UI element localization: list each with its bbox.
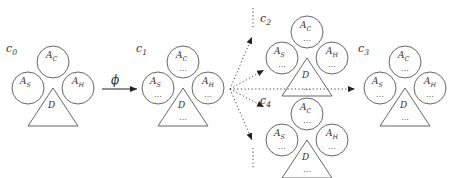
node-label-a-h: AH — [326, 128, 338, 140]
content-ellipsis-a-c: … — [303, 34, 311, 43]
config-label-c4: c4 — [260, 94, 271, 109]
node-label-a-c: AC — [176, 50, 187, 62]
node-label-a-h: AH — [72, 76, 84, 88]
node-label-a-h: AH — [326, 46, 338, 58]
node-label-a-c: AC — [300, 20, 311, 32]
content-ellipsis-d: … — [401, 113, 409, 122]
node-label-a-c: AC — [46, 50, 57, 62]
config-label-c3: c3 — [358, 42, 369, 57]
config-label-c0: c0 — [6, 42, 17, 57]
branch-arrow-up-continuation — [230, 37, 252, 89]
content-ellipsis-a-s: … — [154, 90, 162, 99]
node-label-a-s: AS — [274, 128, 285, 140]
node-label-d: D — [178, 100, 185, 110]
branch-arrow-to-c2 — [230, 70, 264, 89]
node-label-a-s: AS — [20, 76, 31, 88]
branch-arrow-to-c4 — [230, 89, 264, 107]
node-label-d: D — [400, 100, 407, 110]
node-label-a-s: AS — [372, 76, 383, 88]
branch-arrow-down-continuation — [230, 89, 252, 140]
content-ellipsis-a-s: … — [278, 142, 286, 151]
content-ellipsis-a-h: … — [426, 90, 434, 99]
node-label-a-s: AS — [150, 76, 161, 88]
node-label-a-c: AC — [398, 50, 409, 62]
phi-transition-label: ϕ — [111, 73, 119, 87]
config-label-c1: c1 — [136, 42, 147, 57]
branch-arrows — [230, 8, 355, 168]
node-label-a-h: AH — [424, 76, 436, 88]
node-label-a-c: AC — [300, 102, 311, 114]
node-label-d: D — [48, 100, 55, 110]
content-ellipsis-a-c: … — [401, 64, 409, 73]
content-ellipsis-a-h: … — [204, 90, 212, 99]
config-label-c2: c2 — [260, 12, 271, 27]
content-ellipsis-a-s: … — [278, 60, 286, 69]
content-ellipsis-a-s: … — [376, 90, 384, 99]
node-label-a-h: AH — [202, 76, 214, 88]
content-ellipsis-a-h: … — [328, 142, 336, 151]
content-ellipsis-a-c: … — [179, 64, 187, 73]
content-ellipsis-a-h: … — [328, 60, 336, 69]
node-label-d: D — [302, 152, 309, 162]
node-label-a-s: AS — [274, 46, 285, 58]
content-ellipsis-d: … — [303, 165, 311, 174]
content-ellipsis-d: … — [179, 113, 187, 122]
diagram-canvas — [0, 0, 456, 178]
content-ellipsis-d: … — [303, 83, 311, 92]
node-label-d: D — [302, 70, 309, 80]
content-ellipsis-a-c: … — [303, 116, 311, 125]
